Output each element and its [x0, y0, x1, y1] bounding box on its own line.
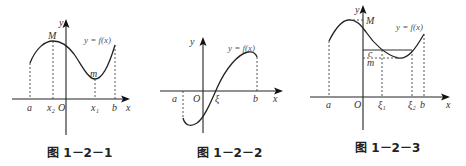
figure-caption: 图 1－2－1 — [47, 146, 112, 160]
figure-caption: 图 1－2－2 — [197, 146, 262, 160]
tick-xi1: ξ₁ — [378, 99, 386, 111]
figures-canvas: y x O M m y = f(x) a x₂ x₁ b 图 1－2－1 y x… — [0, 0, 466, 166]
y-axis-label: y — [58, 17, 64, 28]
x-axis-label: x — [272, 93, 278, 104]
tick-b: b — [253, 93, 258, 104]
x-axis-label: x — [445, 99, 451, 110]
function-label: y = f(x) — [83, 35, 111, 45]
function-curve — [30, 41, 115, 79]
tick-x1: x₁ — [90, 102, 99, 113]
figure-1: y x O M m y = f(x) a x₂ x₁ b 图 1－2－1 — [12, 17, 131, 160]
max-value-label: M — [365, 15, 375, 26]
figure-caption: 图 1－2－3 — [355, 141, 420, 155]
function-curve — [183, 52, 257, 125]
min-value-label: m — [367, 57, 374, 68]
figure-2: y x O y = f(x) a ξ b 图 1－2－2 — [160, 36, 283, 160]
y-axis-label: y — [354, 4, 360, 15]
y-axis-label: y — [189, 36, 195, 47]
tick-a: a — [326, 99, 331, 110]
origin-label: O — [354, 99, 361, 110]
function-label: y = f(x) — [227, 43, 255, 53]
figure-3: y x O M c m y = f(x) a ξ₁ ξ₂ b 图 1－2－3 — [310, 4, 451, 155]
tick-a: a — [27, 102, 32, 113]
tick-xi: ξ — [215, 93, 220, 105]
origin-label: O — [58, 102, 65, 113]
tick-b: b — [420, 99, 425, 110]
function-label: y = f(x) — [395, 22, 423, 32]
max-point-label: M — [47, 30, 57, 41]
tick-b: b — [112, 102, 117, 113]
min-point-label: m — [90, 68, 97, 79]
tick-a: a — [172, 93, 177, 104]
tick-x2: x₂ — [46, 102, 55, 113]
origin-label: O — [193, 93, 200, 104]
x-axis-label: x — [125, 102, 131, 113]
tick-xi2: ξ₂ — [408, 99, 416, 111]
